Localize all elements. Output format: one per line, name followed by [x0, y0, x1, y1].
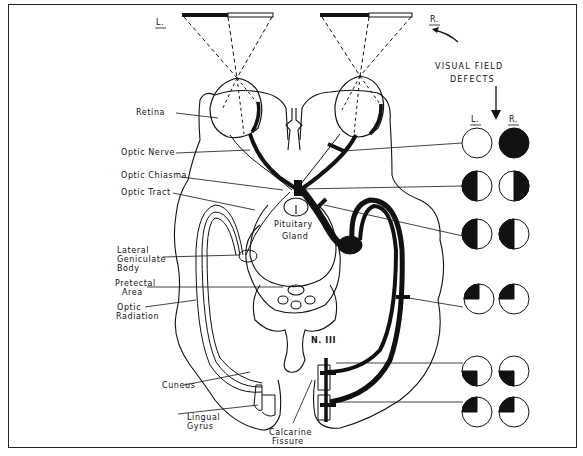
label-pituitary: Pituitary [274, 220, 313, 229]
col-left-label: L. [471, 115, 479, 124]
defects-title-line1: VISUAL FIELD [435, 62, 503, 71]
field-left-normal [462, 128, 492, 158]
right-eye-visual-field [320, 13, 412, 76]
left-eye-visual-field [182, 13, 273, 78]
defects-title-line2: DEFECTS [450, 75, 495, 84]
arrow-icon [434, 30, 458, 42]
label-gyrus: Gyrus [187, 422, 213, 431]
defect-circles [462, 128, 529, 427]
label-optic-nerve: Optic Nerve [121, 148, 175, 157]
label-lingual: Lingual [187, 413, 220, 422]
label-optic-chiasma: Optic Chiasma [121, 171, 187, 180]
defect-row-2 [462, 171, 529, 201]
defect-row-6 [462, 397, 529, 427]
label-optic: Optic [117, 303, 141, 312]
label-gland: Gland [282, 232, 308, 241]
defect-row-5 [462, 356, 529, 386]
visual-pathway-diagram: L. R. [0, 0, 583, 456]
right-side-label: R. [430, 15, 439, 24]
label-nerve-iii: N. III [311, 336, 336, 345]
label-geniculate: Geniculate [117, 255, 166, 264]
label-fissure: Fissure [272, 437, 304, 446]
label-area: Area [122, 288, 143, 297]
label-calcarine: Calcarine [269, 428, 312, 437]
right-eye [335, 76, 384, 137]
field-right-blind [499, 128, 529, 158]
label-retina: Retina [136, 108, 165, 117]
label-pretectal: Pretectal [115, 279, 156, 288]
label-cuneus: Cuneus [162, 381, 196, 390]
optic-pathways [196, 134, 402, 422]
left-side-label: L. [156, 18, 164, 27]
label-lateral: Lateral [117, 246, 149, 255]
arrow-down-icon [491, 110, 501, 120]
defect-row-3 [462, 219, 529, 249]
label-radiation: Radiation [116, 312, 159, 321]
col-right-label: R. [509, 115, 518, 124]
label-optic-tract: Optic Tract [121, 188, 171, 197]
left-eye [210, 78, 262, 138]
defect-row-4 [464, 284, 529, 314]
defect-row-1 [462, 128, 529, 158]
label-body: Body [117, 264, 140, 273]
